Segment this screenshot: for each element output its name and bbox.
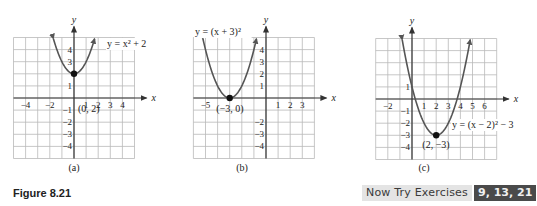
y-axis-label: y bbox=[409, 15, 415, 26]
x-tick-label: 1 bbox=[276, 100, 281, 110]
x-axis-label: x bbox=[513, 93, 519, 104]
x-tick-label: −4 bbox=[21, 100, 31, 110]
subfigure-caption: (a) bbox=[68, 162, 79, 174]
y-tick-label: 3 bbox=[260, 57, 265, 67]
y-tick-label: −2 bbox=[400, 118, 410, 128]
y-tick-label: 4 bbox=[68, 45, 73, 55]
subfigure-caption: (c) bbox=[418, 162, 429, 174]
x-tick-label: 4 bbox=[120, 100, 125, 110]
vertex-point bbox=[433, 132, 439, 138]
x-tick-label: 3 bbox=[108, 100, 113, 110]
y-tick-label: −1 bbox=[400, 106, 410, 116]
y-axis-label: y bbox=[71, 14, 77, 25]
exercise-numbers[interactable]: 9, 13, 21 bbox=[474, 185, 536, 201]
x-tick-label: 3 bbox=[446, 101, 451, 111]
y-tick-label: −1 bbox=[62, 105, 72, 115]
now-try-label: Now Try Exercises bbox=[362, 185, 472, 201]
now-try-exercises-banner: Now Try Exercises 9, 13, 21 bbox=[362, 185, 536, 201]
x-axis-label: x bbox=[330, 92, 336, 103]
graph-a: xy−4−21234431−1−2−3−4(0, 2)y = x² + 2(a) bbox=[14, 14, 157, 175]
y-tick-label: −4 bbox=[62, 141, 72, 151]
y-tick-label: −4 bbox=[254, 141, 264, 151]
equation-label: y = x² + 2 bbox=[107, 38, 146, 49]
equation-label: y = (x + 3)² bbox=[195, 26, 241, 38]
y-tick-label: 1 bbox=[406, 82, 411, 92]
x-tick-label: 2 bbox=[288, 100, 293, 110]
y-tick-label: 3 bbox=[68, 57, 73, 67]
y-tick-label: −2 bbox=[254, 117, 264, 127]
y-tick-label: 4 bbox=[260, 45, 265, 55]
vertex-label: (−3, 0) bbox=[216, 103, 243, 115]
vertex-point bbox=[227, 95, 233, 101]
y-axis-label: y bbox=[263, 14, 269, 25]
y-tick-label: 1 bbox=[68, 81, 73, 91]
x-tick-label: −2 bbox=[45, 100, 55, 110]
equation-label: y = (x − 2)² − 3 bbox=[452, 119, 514, 131]
vertex-label: (0, 2) bbox=[78, 103, 100, 115]
x-tick-label: 3 bbox=[300, 100, 305, 110]
vertex-label: (2, −3) bbox=[422, 139, 449, 151]
y-tick-label: −2 bbox=[62, 117, 72, 127]
x-tick-label: 1 bbox=[422, 101, 427, 111]
vertex-point bbox=[71, 71, 77, 77]
x-tick-label: −5 bbox=[201, 100, 211, 110]
y-tick-label: −3 bbox=[400, 130, 410, 140]
figure-label: Figure 8.21 bbox=[13, 187, 71, 199]
x-axis-label: x bbox=[151, 92, 157, 103]
x-tick-label: 4 bbox=[458, 101, 463, 111]
x-tick-label: −2 bbox=[383, 101, 393, 111]
graph-c: xy−21234561−1−2−3−4(2, −3)y = (x − 2)² −… bbox=[376, 15, 528, 175]
x-tick-label: 2 bbox=[434, 101, 439, 111]
x-tick-label: 5 bbox=[470, 101, 475, 111]
y-tick-label: 1 bbox=[260, 81, 265, 91]
subfigure-caption: (b) bbox=[236, 162, 248, 174]
y-tick-label: −3 bbox=[254, 129, 264, 139]
y-tick-label: 2 bbox=[260, 69, 265, 79]
graph-b: xy−51234321−2−3−4(−3, 0)y = (x + 3)²(b) bbox=[193, 14, 336, 175]
x-tick-label: 6 bbox=[482, 101, 487, 111]
y-tick-label: −4 bbox=[400, 142, 410, 152]
y-tick-label: −3 bbox=[62, 129, 72, 139]
figure-graphs: xy−4−21234431−1−2−3−4(0, 2)y = x² + 2(a)… bbox=[0, 0, 537, 206]
